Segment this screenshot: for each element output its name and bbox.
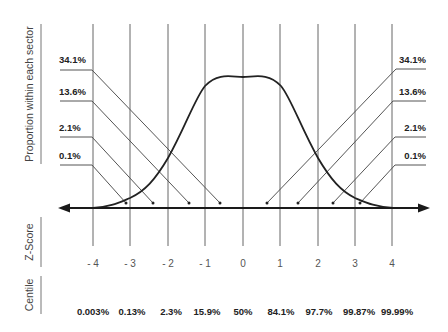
svg-text:1: 1 (277, 258, 283, 269)
svg-text:99.99%: 99.99% (381, 306, 414, 317)
right-arrow-icon (418, 204, 430, 213)
z-gridlines (93, 24, 392, 246)
right-label-0: 0.1% (404, 150, 426, 161)
svg-text:0.13%: 0.13% (119, 306, 146, 317)
z-score-labels: - 4 - 3 - 2 - 1 0 1 2 3 4 (87, 258, 395, 269)
svg-text:- 2: - 2 (162, 258, 174, 269)
svg-text:97.7%: 97.7% (306, 306, 333, 317)
proportion-axis-title: Proportion within each sector (23, 26, 35, 162)
svg-text:2: 2 (315, 258, 321, 269)
svg-text:50%: 50% (233, 306, 253, 317)
svg-text:4: 4 (389, 258, 395, 269)
zscore-axis-title: Z-Score (23, 223, 35, 261)
left-label-0: 0.1% (59, 150, 81, 161)
left-arrow-icon (58, 204, 70, 213)
right-label-34: 34.1% (399, 54, 426, 65)
svg-text:84.1%: 84.1% (268, 306, 295, 317)
left-leader-dots (125, 202, 222, 205)
centile-axis-title: Centile (23, 278, 35, 311)
left-label-2: 2.1% (59, 122, 81, 133)
svg-text:99.87%: 99.87% (343, 306, 376, 317)
right-label-2: 2.1% (404, 122, 426, 133)
left-label-13: 13.6% (59, 86, 86, 97)
svg-text:- 3: - 3 (124, 258, 136, 269)
svg-text:- 1: - 1 (199, 258, 211, 269)
svg-text:3: 3 (352, 258, 358, 269)
centile-labels: 0.003% 0.13% 2.3% 15.9% 50% 84.1% 97.7% … (77, 306, 414, 317)
normal-distribution-diagram: Proportion within each sector Z-Score Ce… (0, 0, 448, 332)
svg-text:2.3%: 2.3% (160, 306, 182, 317)
svg-text:0.003%: 0.003% (77, 306, 110, 317)
svg-text:0: 0 (240, 258, 246, 269)
svg-text:15.9%: 15.9% (194, 306, 221, 317)
svg-text:- 4: - 4 (87, 258, 99, 269)
right-label-13: 13.6% (399, 86, 426, 97)
left-label-34: 34.1% (59, 54, 86, 65)
